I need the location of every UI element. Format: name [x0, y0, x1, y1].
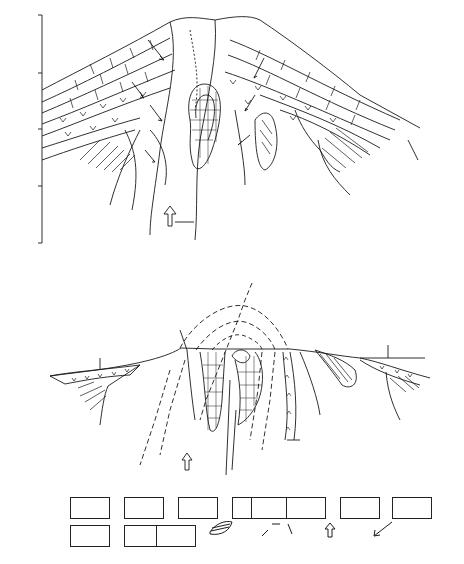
section-a-diagram	[38, 15, 420, 243]
ore-body-icon	[210, 521, 232, 534]
legend-item-2	[124, 497, 164, 519]
fold-icon	[262, 524, 292, 536]
legend-item-5	[286, 497, 326, 519]
legend-item-10-spacer	[156, 525, 196, 547]
legend-item-1	[70, 497, 110, 519]
legend-item-7	[392, 497, 432, 519]
section-b-diagram	[50, 283, 430, 475]
legend-item-3	[178, 497, 218, 519]
legend-item-6	[340, 497, 380, 519]
legend-item-5-spacer	[251, 497, 291, 519]
geologic-cross-sections	[0, 0, 464, 564]
legend-item-8	[70, 525, 110, 547]
flow-arrow-icon	[374, 522, 392, 536]
legend-icons	[210, 521, 392, 537]
fluid-arrow-icon	[325, 523, 335, 537]
